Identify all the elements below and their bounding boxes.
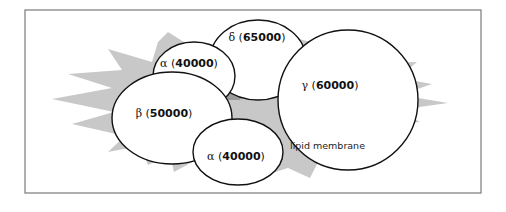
label-gamma: γ (60000) — [302, 79, 359, 92]
protein-complex-diagram: δ (65000) α (40000) γ (60000) β (50000) … — [0, 0, 506, 212]
label-beta: β (50000) — [136, 107, 193, 120]
label-alpha-top: α (40000) — [160, 57, 218, 70]
label-delta: δ (65000) — [229, 31, 286, 44]
label-alpha-bottom: α (40000) — [207, 150, 265, 163]
label-lipid-membrane: lipid membrane — [290, 140, 365, 151]
